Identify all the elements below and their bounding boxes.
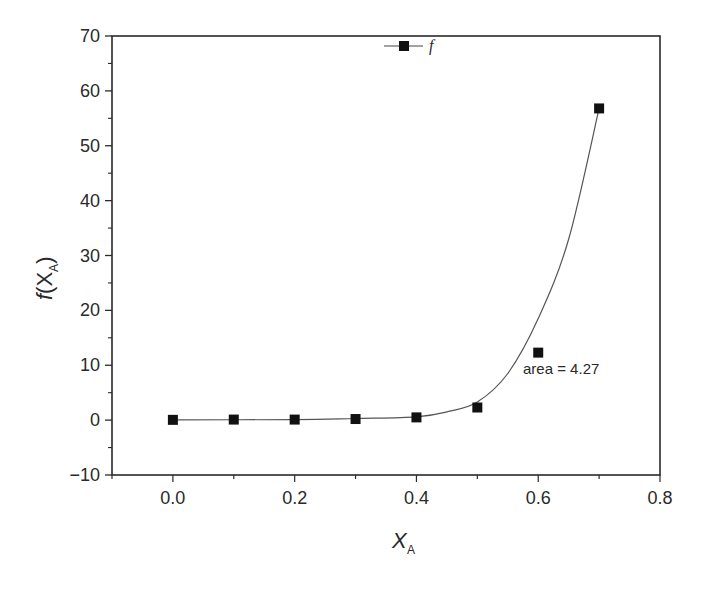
data-point-marker	[411, 412, 421, 422]
y-tick-label: 40	[80, 191, 100, 211]
x-tick-label: 0.0	[160, 488, 185, 508]
x-axis-title-sub: A	[407, 543, 415, 557]
plot-frame	[112, 36, 660, 475]
y-axis-title-main: (X	[32, 272, 57, 294]
y-tick-label: 10	[80, 355, 100, 375]
y-tick-label: 0	[90, 410, 100, 430]
legend-marker-icon	[399, 41, 409, 51]
data-point-marker	[472, 403, 482, 413]
legend: f	[384, 37, 436, 55]
y-tick-label: −10	[69, 465, 100, 485]
svg-text:f(XA): f(XA)	[32, 257, 61, 300]
x-tick-label: 0.4	[404, 488, 429, 508]
y-axis-title-close: )	[32, 257, 57, 264]
data-point-marker	[594, 103, 604, 113]
x-axis-title-main: X	[391, 528, 408, 553]
y-tick-label: 50	[80, 136, 100, 156]
y-tick-label: 30	[80, 246, 100, 266]
y-axis-title-sub: A	[47, 264, 61, 272]
y-tick-label: 20	[80, 300, 100, 320]
y-tick-label: 60	[80, 81, 100, 101]
x-axis-ticks: 0.00.20.40.60.8	[112, 475, 673, 508]
x-tick-label: 0.6	[526, 488, 551, 508]
x-axis-title: X A	[391, 528, 415, 557]
chart: −10010203040506070 0.00.20.40.60.8 f are…	[0, 0, 708, 590]
x-tick-label: 0.8	[647, 488, 672, 508]
data-point-marker	[351, 414, 361, 424]
area-annotation: area = 4.27	[523, 360, 599, 377]
x-tick-label: 0.2	[282, 488, 307, 508]
y-tick-label: 70	[80, 26, 100, 46]
y-axis-ticks: −10010203040506070	[69, 26, 112, 485]
data-point-marker	[533, 348, 543, 358]
data-point-marker	[229, 415, 239, 425]
legend-label: f	[429, 37, 436, 55]
y-axis-title: f(XA)	[32, 257, 61, 300]
data-point-marker	[168, 415, 178, 425]
data-point-marker	[290, 415, 300, 425]
